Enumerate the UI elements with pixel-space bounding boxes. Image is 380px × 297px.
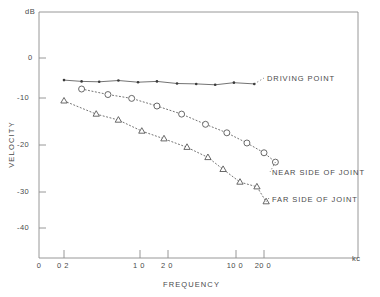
- x-tick-label: 0 2: [57, 261, 69, 270]
- marker-open-triangle: [115, 117, 121, 123]
- x-tick-label: 2 0: [161, 261, 173, 270]
- x-tick-label: 0: [37, 261, 42, 270]
- marker-open-circle: [202, 121, 208, 127]
- x-tick-label: 1 0: [133, 261, 145, 270]
- data-series-layer: [61, 79, 279, 204]
- marker-open-triangle: [220, 166, 226, 172]
- marker-open-circle: [244, 140, 250, 146]
- marker-filled-dot: [214, 83, 217, 86]
- marker-filled-dot: [80, 80, 83, 83]
- marker-open-circle: [154, 103, 160, 109]
- y-tick-label: -30: [17, 187, 29, 196]
- velocity-frequency-plot: [0, 0, 380, 297]
- plot-frame: [39, 12, 358, 258]
- marker-open-circle: [179, 111, 185, 117]
- marker-open-circle: [261, 150, 267, 156]
- marker-filled-dot: [176, 82, 179, 85]
- marker-open-triangle: [237, 179, 243, 185]
- legend-leader-lines: [254, 78, 275, 202]
- y-axis-title: VELOCITY: [7, 115, 16, 175]
- x-unit-label: kc: [352, 254, 361, 263]
- series-line: [64, 80, 254, 85]
- marker-filled-dot: [63, 79, 66, 82]
- chart-figure: dB 0-10-20-30-40 00 21 02 010 020 0 kc F…: [0, 0, 380, 297]
- marker-open-triangle: [205, 154, 211, 160]
- series-label-driving-point: DRIVING POINT: [267, 74, 335, 83]
- x-tick-label: 10 0: [227, 261, 243, 270]
- x-tick-label: 20 0: [255, 261, 271, 270]
- series-near-side-of-joint: [79, 86, 279, 165]
- y-tick-label: -20: [17, 140, 29, 149]
- series-far-side-of-joint: [61, 98, 269, 204]
- series-driving-point: [63, 79, 256, 86]
- x-axis-title: FREQUENCY: [163, 280, 220, 289]
- marker-open-circle: [105, 92, 111, 98]
- marker-filled-dot: [98, 81, 101, 84]
- marker-open-triangle: [61, 98, 67, 104]
- y-tick-label: -10: [17, 93, 29, 102]
- y-unit-label: dB: [25, 7, 35, 16]
- y-axis-ticks: [39, 58, 46, 228]
- marker-open-circle: [79, 86, 85, 92]
- series-label-far-side: FAR SIDE OF JOINT: [272, 195, 358, 204]
- marker-filled-dot: [195, 83, 198, 86]
- marker-filled-dot: [137, 81, 140, 84]
- x-axis-ticks: [64, 250, 264, 258]
- marker-open-circle: [224, 130, 230, 136]
- marker-filled-dot: [117, 79, 120, 82]
- y-tick-label: -40: [17, 223, 29, 232]
- marker-filled-dot: [156, 80, 159, 83]
- marker-open-circle: [129, 95, 135, 101]
- series-line: [82, 89, 276, 162]
- marker-filled-dot: [233, 81, 236, 84]
- series-label-near-side: NEAR SIDE OF JOINT: [272, 168, 365, 177]
- leader-driving-point: [254, 78, 264, 84]
- y-tick-label: 0: [28, 53, 33, 62]
